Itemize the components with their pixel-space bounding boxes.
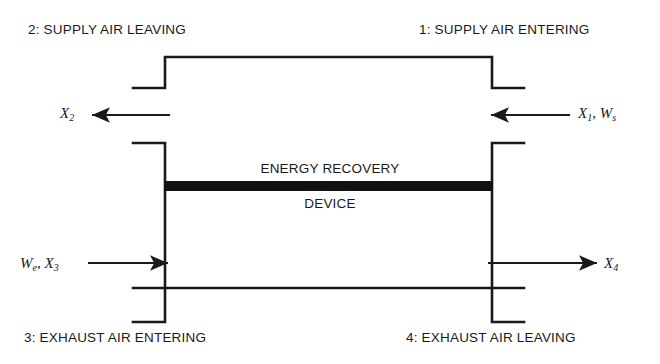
stream-label-supply-inlet: X1, Ws bbox=[578, 105, 616, 122]
stream-label-supply-outlet: X2 bbox=[60, 105, 74, 122]
energy-recovery-device-bar bbox=[164, 181, 493, 191]
device-label-line-1: ENERGY RECOVERY bbox=[0, 161, 660, 176]
stream-label-exhaust-outlet: X4 bbox=[604, 255, 618, 272]
port-label-exhaust-air-leaving: 4: EXHAUST AIR LEAVING bbox=[406, 330, 576, 345]
port-label-supply-air-leaving: 2: SUPPLY AIR LEAVING bbox=[28, 22, 186, 37]
duct-schematic-drawing bbox=[0, 0, 660, 364]
supply-duct-top-wall bbox=[133, 57, 524, 88]
device-label-line-2: DEVICE bbox=[0, 196, 660, 211]
stream-label-exhaust-inlet: We, X3 bbox=[20, 255, 59, 272]
diagram-canvas: 2: SUPPLY AIR LEAVING 1: SUPPLY AIR ENTE… bbox=[0, 0, 660, 364]
exhaust-duct-bottom-wall bbox=[133, 288, 524, 322]
port-label-exhaust-air-entering: 3: EXHAUST AIR ENTERING bbox=[24, 330, 206, 345]
port-label-supply-air-entering: 1: SUPPLY AIR ENTERING bbox=[419, 22, 589, 37]
